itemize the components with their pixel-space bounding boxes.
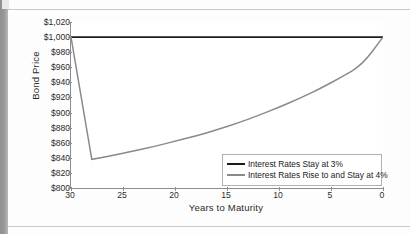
y-tick-mark xyxy=(68,67,72,68)
y-tick-label: $880 xyxy=(22,123,70,132)
y-tick-label: $840 xyxy=(22,154,70,163)
y-tick-mark xyxy=(68,173,72,174)
y-tick-mark xyxy=(68,143,72,144)
y-tick-label: $1,020 xyxy=(22,18,70,27)
y-tick-mark xyxy=(68,128,72,129)
y-tick-label: $860 xyxy=(22,138,70,147)
x-tick-label: 25 xyxy=(117,190,127,200)
y-tick-mark xyxy=(68,158,72,159)
y-tick-mark xyxy=(68,97,72,98)
y-tick-label: $900 xyxy=(22,108,70,117)
x-tick-label: 10 xyxy=(273,190,283,200)
y-tick-label: $800 xyxy=(22,184,70,193)
y-tick-mark xyxy=(68,22,72,23)
legend-color-swatch xyxy=(227,174,245,176)
y-tick-mark xyxy=(68,37,72,38)
scan-edge-strip xyxy=(0,0,8,234)
x-axis-title: Years to Maturity xyxy=(70,202,382,213)
y-tick-label: $920 xyxy=(22,93,70,102)
legend-label: Interest Rates Stay at 3% xyxy=(248,160,343,168)
page-background: Bond Price $800$820$840$860$880$900$920$… xyxy=(0,0,410,234)
bond-price-chart: Bond Price $800$820$840$860$880$900$920$… xyxy=(8,10,410,226)
y-tick-label: $1,000 xyxy=(22,33,70,42)
legend-item: Interest Rates Stay at 3% xyxy=(227,159,377,169)
legend-color-swatch xyxy=(227,163,245,165)
scan-corner-mark xyxy=(2,0,9,9)
x-tick-label: 0 xyxy=(380,190,385,200)
x-tick-label: 30 xyxy=(65,190,75,200)
y-tick-label: $820 xyxy=(22,169,70,178)
page-bottom-rule xyxy=(8,226,410,227)
legend-item: Interest Rates Rise to and Stay at 4% xyxy=(227,170,377,180)
y-tick-mark xyxy=(68,82,72,83)
series-line xyxy=(71,37,383,159)
y-axis-tick-labels: $800$820$840$860$880$900$920$940$960$980… xyxy=(20,10,70,226)
legend-label: Interest Rates Rise to and Stay at 4% xyxy=(248,171,388,179)
y-tick-label: $980 xyxy=(22,48,70,57)
y-tick-mark xyxy=(68,113,72,114)
x-tick-label: 15 xyxy=(221,190,231,200)
y-tick-label: $940 xyxy=(22,78,70,87)
x-tick-label: 20 xyxy=(169,190,179,200)
y-tick-mark xyxy=(68,52,72,53)
y-tick-label: $960 xyxy=(22,63,70,72)
chart-legend: Interest Rates Stay at 3% Interest Rates… xyxy=(222,154,382,186)
x-tick-label: 5 xyxy=(328,190,333,200)
